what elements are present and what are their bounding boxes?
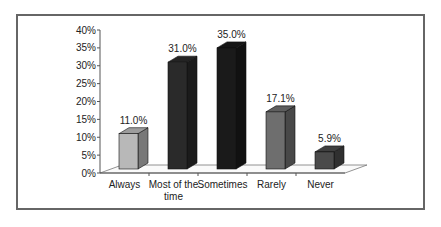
category-label: Always (109, 179, 141, 190)
value-label: 35.0% (217, 29, 245, 40)
y-tick-label: 40% (76, 25, 96, 36)
category-label: Rarely (257, 179, 286, 190)
bar-side (236, 42, 246, 169)
y-tick-label: 25% (76, 78, 96, 89)
category-label: Most of the (149, 179, 199, 190)
bar-chart: 0%5%10%15%20%25%30%35%40%11.0%Always31.0… (0, 0, 441, 227)
bar-side (138, 128, 148, 169)
y-tick-label: 15% (76, 114, 96, 125)
category-label: Never (307, 179, 334, 190)
bar (266, 112, 285, 169)
value-label: 5.9% (318, 133, 341, 144)
value-label: 31.0% (168, 43, 196, 54)
bar-side (285, 106, 295, 169)
bar (119, 134, 138, 169)
category-label: time (164, 191, 183, 202)
y-tick-label: 0% (82, 168, 97, 179)
bar (168, 62, 187, 169)
category-label: Sometimes (197, 179, 247, 190)
y-tick-label: 20% (76, 96, 96, 107)
y-tick-label: 30% (76, 60, 96, 71)
y-tick-label: 35% (76, 42, 96, 53)
bar (217, 48, 236, 169)
y-tick-label: 10% (76, 132, 96, 143)
value-label: 11.0% (120, 115, 148, 126)
bar-side (187, 56, 197, 169)
value-label: 17.1% (266, 93, 294, 104)
bar (315, 152, 334, 169)
y-tick-label: 5% (82, 150, 97, 161)
